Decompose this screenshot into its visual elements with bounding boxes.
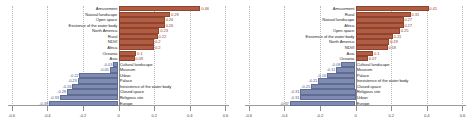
plot-area-right: -0.6-0.4-0.200.20.40.6Amusement0.41Rural… bbox=[245, 6, 466, 116]
bar bbox=[49, 101, 119, 106]
bar-value-label: -0.39 bbox=[39, 101, 48, 106]
axis-tick bbox=[427, 106, 428, 111]
axis-tick-label: 0 bbox=[354, 113, 356, 118]
bar-row: Europe-0.37 bbox=[245, 101, 466, 106]
bar-row: Europe-0.39 bbox=[8, 101, 229, 106]
axis-tick bbox=[225, 106, 226, 111]
axis-tick-label: 0.2 bbox=[151, 113, 156, 118]
axis-tick-label: -0.6 bbox=[245, 113, 252, 118]
panel-left-top-mask bbox=[18, 0, 128, 4]
bar bbox=[290, 101, 356, 106]
axis-tick-label: -0.2 bbox=[80, 113, 87, 118]
axis-tick-label: -0.4 bbox=[44, 113, 51, 118]
axis-tick-label: 0.2 bbox=[388, 113, 393, 118]
axis-tick bbox=[12, 106, 13, 111]
axis-tick-label: 0.4 bbox=[187, 113, 192, 118]
axis-tick bbox=[284, 106, 285, 111]
axis-tick bbox=[83, 106, 84, 111]
bar-category-label: Europe bbox=[120, 101, 133, 106]
bar-value-label: -0.37 bbox=[280, 101, 289, 106]
axis-tick bbox=[154, 106, 155, 111]
axis-tick bbox=[47, 106, 48, 111]
bar-rows: Amusement0.46Natural landscape0.29Open s… bbox=[8, 6, 229, 106]
axis-tick bbox=[320, 106, 321, 111]
dual-bar-chart-figure: -0.6-0.4-0.200.20.40.6Amusement0.46Natur… bbox=[0, 0, 474, 128]
axis-tick bbox=[462, 106, 463, 111]
axis-tick-label: -0.6 bbox=[8, 113, 15, 118]
axis-tick-label: 0 bbox=[117, 113, 119, 118]
bar-rows: Amusement0.41Rural0.31Natural landscape0… bbox=[245, 6, 466, 106]
axis-tick bbox=[356, 106, 357, 111]
axis-tick bbox=[190, 106, 191, 111]
axis-tick-label: 0.6 bbox=[223, 113, 228, 118]
axis-tick-label: 0.6 bbox=[460, 113, 465, 118]
chart-panel-right: -0.6-0.4-0.200.20.40.6Amusement0.41Rural… bbox=[237, 0, 474, 128]
axis-tick bbox=[391, 106, 392, 111]
bar-category-label: Europe bbox=[357, 101, 370, 106]
axis-tick-label: 0.4 bbox=[424, 113, 429, 118]
axis-tick-label: -0.4 bbox=[281, 113, 288, 118]
plot-area-left: -0.6-0.4-0.200.20.40.6Amusement0.46Natur… bbox=[8, 6, 229, 116]
axis-tick bbox=[249, 106, 250, 111]
chart-panel-left: -0.6-0.4-0.200.20.40.6Amusement0.46Natur… bbox=[0, 0, 237, 128]
axis-tick bbox=[119, 106, 120, 111]
axis-tick-label: -0.2 bbox=[317, 113, 324, 118]
